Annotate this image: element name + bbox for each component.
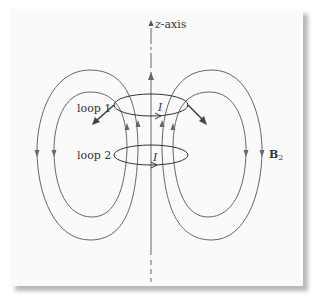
arrow-down-icon [52, 150, 57, 157]
current-label-loop-1: I [157, 101, 163, 114]
axis-field-arrow-icon [148, 72, 154, 80]
z-axis-label: z-axis [154, 18, 187, 31]
field-label-b2: B2 [269, 148, 283, 162]
field-lines-right [162, 70, 262, 240]
field-direction-arrows [35, 120, 265, 157]
loop-1-label: loop 1 [77, 102, 111, 115]
magnetic-loops-diagram: z-axis loop 1 loop 2 I I B2 [0, 0, 320, 307]
z-axis-arrow-icon [149, 20, 154, 26]
arrow-down-icon [35, 150, 40, 157]
arrow-down-icon [244, 150, 249, 157]
loop-2-label: loop 2 [77, 149, 111, 162]
arrow-down-icon [260, 150, 265, 157]
current-label-loop-2: I [152, 151, 158, 164]
